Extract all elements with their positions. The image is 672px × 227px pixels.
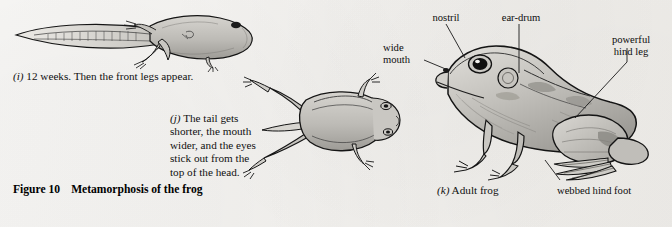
label-webbed-hind-foot: webbed hind foot bbox=[557, 185, 667, 197]
label-powerful-hind-leg: powerful hind leg bbox=[598, 34, 664, 58]
caption-enumerator-k: (k) bbox=[437, 184, 449, 196]
label-ear-drum: ear-drum bbox=[490, 12, 552, 24]
caption-stage-k: (k) Adult frog bbox=[437, 184, 547, 197]
caption-text-k: Adult frog bbox=[452, 184, 499, 196]
label-wide-mouth: wide mouth bbox=[383, 42, 423, 66]
figure-page: (i) 12 weeks. Then the front legs appear… bbox=[0, 0, 672, 227]
label-nostril: nostril bbox=[418, 12, 474, 24]
